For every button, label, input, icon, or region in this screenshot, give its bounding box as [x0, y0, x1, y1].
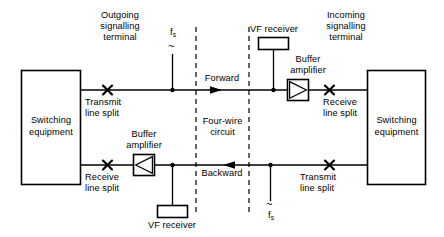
top-buffer-amplifier-symbol [288, 80, 309, 101]
forward-arrow-right-icon [210, 86, 222, 94]
bottom-oscillator-tilde-icon: ~ [266, 200, 272, 208]
top-vf-receiver-label: VF receiver [233, 24, 315, 35]
left-switching-line2: equipment [29, 127, 73, 137]
transmit-line-split-left-label: Transmitline split [85, 97, 151, 119]
receive-line-split-right-label: Receiveline split [323, 97, 389, 119]
transmit-line-split-right-label: Transmitline split [300, 172, 366, 194]
top-vf-receiver-box [259, 38, 289, 50]
left-switching-line1: Switching [31, 115, 71, 125]
bottom-vf-receiver-box [158, 206, 188, 218]
four-wire-signalling-diagram: Switchingequipment Switchingequipment Ou… [0, 0, 444, 237]
four-wire-circuit-label: Four-wirecircuit [186, 116, 259, 138]
fs-top-subscript: s [173, 31, 176, 38]
bottom-vf-receiver-junction-dot-icon [170, 163, 174, 167]
top-vf-receiver-junction-dot-icon [271, 88, 275, 92]
top-oscillator-fs-label: fs [163, 27, 183, 38]
top-oscillator-junction-dot-icon [170, 88, 174, 92]
top-oscillator-tilde-icon: ~ [168, 42, 174, 50]
left-switching-equipment-label: Switchingequipment [21, 115, 81, 138]
receive-line-split-left-label: Receiveline split [85, 172, 151, 194]
bottom-vf-receiver-label: VF receiver [131, 220, 213, 231]
bottom-oscillator-junction-dot-icon [268, 163, 272, 167]
bottom-oscillator-fs-label: fs [261, 210, 281, 221]
right-switching-line2: equipment [375, 127, 419, 137]
fs-bottom-subscript: s [271, 214, 274, 221]
top-buffer-amplifier-label: Bufferamplifier [274, 54, 342, 76]
bottom-buffer-amplifier-label: Bufferamplifier [110, 129, 178, 151]
backward-direction-label: Backward [186, 168, 258, 179]
outgoing-signalling-terminal-label: Outgoingsignallingterminal [71, 10, 169, 43]
forward-direction-label: Forward [186, 73, 258, 84]
